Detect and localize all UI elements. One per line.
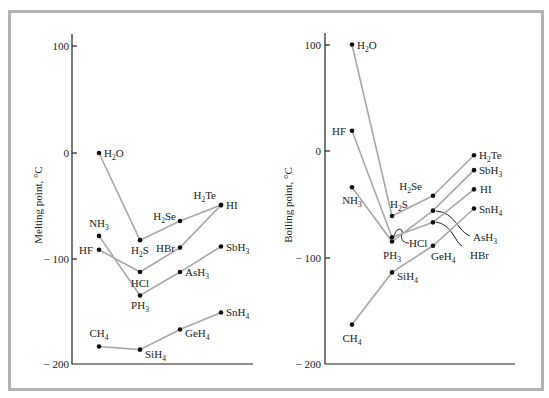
point-label-geh4: GeH4 [431, 250, 456, 265]
data-point-ph3 [390, 239, 395, 244]
point-label-hcl: HCl [131, 277, 149, 289]
point-label-h2o: H2O [357, 39, 377, 54]
point-label-ch4: CH4 [342, 332, 361, 347]
data-point-h2se [178, 219, 183, 224]
data-point-ph3 [138, 293, 143, 298]
data-point-h2o [97, 151, 102, 156]
point-label-h2se: H2Se [399, 180, 422, 195]
y-tick-label: − 100 [44, 253, 70, 265]
point-label-hi: HI [480, 183, 492, 195]
data-point-ash3 [431, 208, 436, 213]
point-label-hbr: HBr [470, 249, 489, 261]
melting-point-chart: 100 0 − 100 − 200 Melting point, °C CH4S… [32, 34, 253, 370]
figure-canvas: 100 0 − 100 − 200 Melting point, °C CH4S… [0, 0, 549, 398]
data-point-hcl [390, 235, 395, 240]
y-tick-label: − 200 [296, 358, 322, 370]
data-point-snh4 [219, 310, 224, 315]
data-point-hi [472, 187, 477, 192]
data-point-hi [219, 203, 224, 208]
data-point-snh4 [472, 206, 477, 211]
point-label-nh3: NH3 [89, 217, 109, 232]
data-point-h2te [472, 153, 477, 158]
point-label-ash3: AsH3 [185, 266, 209, 281]
data-point-ch4 [350, 322, 355, 327]
y-axis-label: Melting point, °C [32, 166, 44, 243]
data-point-nh3 [350, 185, 355, 190]
data-point-h2s [390, 214, 395, 219]
point-label-ph3: PH3 [131, 299, 149, 314]
point-label-sih4: SiH4 [145, 348, 166, 363]
point-label-h2se: H2Se [153, 210, 176, 225]
boiling-point-chart: 100 0 − 100 − 200 Boiling point, °C CH4S… [282, 33, 515, 370]
point-label-hf: HF [332, 125, 346, 137]
point-label-h2s: H2S [390, 198, 408, 213]
y-tick-label: − 200 [44, 358, 70, 370]
data-point-hbr [178, 245, 183, 250]
point-label-hcl: HCl [409, 237, 427, 249]
point-label-snh4: SnH4 [226, 306, 250, 321]
data-point-hf [97, 247, 102, 252]
data-point-h2se [431, 193, 436, 198]
data-point-sbh3 [472, 168, 477, 173]
point-label-sbh3: SbH3 [479, 164, 503, 179]
y-tick-label: 100 [305, 39, 322, 51]
point-label-snh4: SnH4 [479, 203, 503, 218]
point-label-h2te: H2Te [193, 189, 216, 204]
y-tick-label: − 100 [296, 252, 322, 264]
data-point-geh4 [178, 327, 183, 332]
point-label-hf: HF [79, 244, 93, 256]
point-label-sih4: SiH4 [397, 270, 418, 285]
y-axis-label: Boiling point, °C [282, 167, 294, 243]
data-point-sbh3 [219, 244, 224, 249]
y-tick-label: 0 [316, 145, 322, 157]
y-tick-label: 0 [64, 147, 70, 159]
data-point-h2s [138, 238, 143, 243]
point-label-h2te: H2Te [479, 149, 502, 164]
data-point-sih4 [138, 347, 143, 352]
point-label-sbh3: SbH3 [226, 241, 250, 256]
point-label-hi: HI [226, 199, 238, 211]
data-point-geh4 [431, 243, 436, 248]
point-label-ch4: CH4 [89, 327, 108, 342]
point-label-h2s: H2S [131, 244, 149, 259]
data-point-nh3 [97, 234, 102, 239]
data-point-hbr [431, 220, 436, 225]
data-point-ch4 [97, 344, 102, 349]
y-tick-label: 100 [53, 40, 70, 52]
data-point-hf [350, 128, 355, 133]
point-label-hbr: HBr [156, 242, 175, 254]
point-label-ph3: PH3 [383, 249, 401, 264]
point-label-geh4: GeH4 [185, 327, 210, 342]
point-label-h2o: H2O [104, 147, 124, 162]
data-point-ash3 [178, 270, 183, 275]
point-label-ash3: AsH3 [473, 231, 497, 246]
data-point-sih4 [390, 270, 395, 275]
data-point-h2o [350, 42, 355, 47]
data-point-hcl [138, 270, 143, 275]
